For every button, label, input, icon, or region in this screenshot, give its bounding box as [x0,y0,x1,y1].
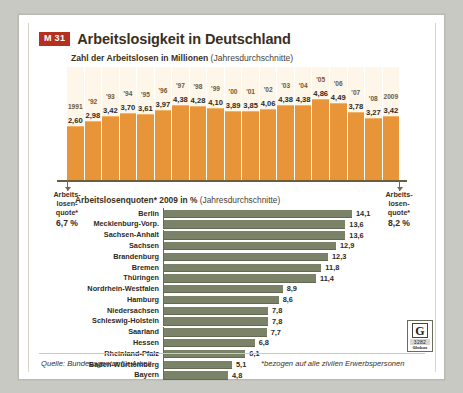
bar-fill [164,371,228,379]
bar-fill [164,339,255,347]
column-item: '013,85 [242,67,259,180]
bar-track: 7,8 [163,316,375,327]
bar-value-label: 12,9 [340,241,354,250]
bar-fill [164,328,267,336]
column-item: '933,42 [102,67,119,180]
bar-state-label: Brandenburg [75,253,163,260]
column-item: '963,97 [155,67,172,180]
bar-fill [164,274,316,282]
column-value-label: 3,70 [120,103,137,112]
column-year-label: '02 [260,86,277,93]
column-year-label: '99 [207,85,224,92]
globus-logo: G 3282 Globus [407,320,433,352]
column-bar [225,111,242,180]
quote-right-box: Arbeits- losen- quote* 8,2 % [371,191,427,229]
column-value-label: 2,60 [67,116,84,125]
column-year-label: '03 [277,82,294,89]
bar-state-label: Schleswig-Holstein [75,317,163,324]
bar-state-label: Saarland [75,328,163,335]
column-value-label: 4,38 [295,95,312,104]
column-value-label: 2,98 [85,111,102,120]
column-value-label: 4,86 [312,89,329,98]
bar-row: Brandenburg12,3 [75,251,375,262]
column-value-label: 3,42 [102,106,119,115]
bar-value-label: 12,3 [332,252,346,261]
column-item: '974,38 [172,67,189,180]
top-chart-subtitle-bold: Zahl der Arbeitslosen in Millionen [71,53,208,63]
column-value-label: 3,42 [383,106,400,115]
footer-divider [39,353,425,354]
column-item: '064,49 [330,67,347,180]
quote-right-line3: quote* [371,209,427,218]
infographic-inner-frame: M 31 Arbeitslosigkeit in Deutschland Zah… [28,23,436,372]
bar-state-label: Berlin [75,210,163,217]
column-bar [295,105,312,180]
bar-fill [164,264,321,272]
column-item: '054,86 [312,67,329,180]
column-bar [67,126,84,180]
footnote-text: *bezogen auf alle zivilen Erwerbspersone… [261,359,405,368]
bar-track: 12,3 [163,251,375,262]
column-bar [120,113,137,180]
bar-state-label: Bayern [75,371,163,378]
column-item: '003,89 [225,67,242,180]
bar-fill [164,242,336,250]
bar-track: 14,1 [163,208,375,219]
column-bar [260,109,277,180]
bar-track: 11,4 [163,273,375,284]
column-item: '083,27 [365,67,382,180]
bar-state-label: Thüringen [75,274,163,281]
column-year-label: '05 [312,76,329,83]
column-year-label: '08 [365,95,382,102]
bar-track: 12,9 [163,240,375,251]
column-year-label: '00 [225,88,242,95]
column-value-label: 3,97 [155,100,172,109]
column-bar [330,103,347,180]
column-value-label: 4,49 [330,93,347,102]
bar-row: Nordrhein-Westfalen8,9 [75,283,375,294]
column-value-label: 3,61 [137,104,154,113]
column-item: '073,78 [348,67,365,180]
bar-value-label: 7,8 [272,317,282,326]
column-value-label: 4,10 [207,98,224,107]
bar-value-label: 11,8 [325,263,339,272]
column-value-label: 4,38 [172,95,189,104]
state-bar-chart: Berlin14,1Mecklenburg-Vorp.13,6Sachsen-A… [75,208,375,381]
source-text: Quelle: Bundesagentur für Arbeit [41,359,151,368]
bar-track: 11,8 [163,262,375,273]
bar-value-label: 14,1 [356,209,370,218]
bar-value-label: 7,8 [272,306,282,315]
bar-fill [164,253,328,261]
column-value-label: 3,85 [242,101,259,110]
column-bar [172,105,189,180]
column-year-label: '96 [155,87,172,94]
bar-row: Berlin14,1 [75,208,375,219]
column-year-label: '07 [348,89,365,96]
bar-state-label: Sachsen [75,242,163,249]
bar-state-label: Nordrhein-Westfalen [75,285,163,292]
bar-track: 7,8 [163,305,375,316]
bar-fill [164,317,268,325]
top-chart-subtitle: Zahl der Arbeitslosen in Millionen (Jahr… [71,53,293,63]
column-year-label: '95 [137,91,154,98]
column-year-label: '97 [172,82,189,89]
bar-chart-subtitle-bold: Arbeitslosenquoten* 2009 in % [75,195,197,205]
column-bar [312,99,329,180]
column-year-label: '98 [190,83,207,90]
column-year-label: 2009 [383,93,400,100]
bar-fill [164,220,345,228]
column-bar [85,121,102,180]
bar-fill [164,296,279,304]
column-value-label: 3,89 [225,101,242,110]
column-chart-columns: 19912,60'922,98'933,42'943,70'953,61'963… [67,67,399,180]
header: M 31 Arbeitslosigkeit in Deutschland [39,31,291,47]
column-item: 19912,60 [67,67,84,180]
bar-track: 13,6 [163,230,375,241]
quote-right-value: 8,2 % [371,218,427,228]
page-title: Arbeitslosigkeit in Deutschland [77,31,291,47]
column-bar [365,118,382,180]
bar-fill [164,285,283,293]
bar-row: Sachsen12,9 [75,240,375,251]
top-chart-subtitle-light: (Jahresdurchschnitte) [211,53,294,63]
column-year-label: 1991 [67,103,84,110]
